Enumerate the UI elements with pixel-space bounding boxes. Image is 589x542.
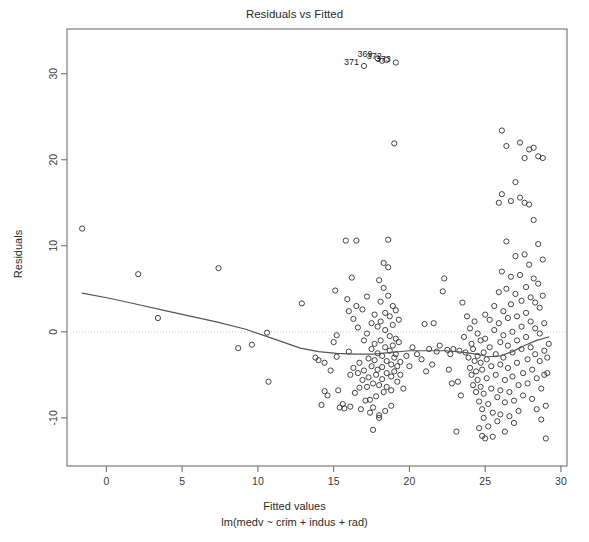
residuals-vs-fitted-plot: Residuals vs Fitted 051015202530 -100102… (0, 0, 589, 542)
y-tick-label: -10 (47, 410, 59, 425)
outlier-label: 373 (376, 54, 391, 64)
x-tick-label: 25 (479, 475, 491, 487)
y-tick-label: 30 (47, 68, 59, 80)
chart-title: Residuals vs Fitted (246, 8, 343, 20)
x-tick-label: 5 (179, 475, 185, 487)
x-tick-label: 10 (252, 475, 264, 487)
y-axis-label: Residuals (12, 229, 24, 278)
y-tick-label: 10 (47, 240, 59, 252)
x-axis-label: Fitted values (263, 500, 326, 512)
model-formula-label: lm(medv ~ crim + indus + rad) (221, 516, 367, 528)
x-tick-label: 0 (103, 475, 109, 487)
x-tick-label: 15 (328, 475, 340, 487)
x-tick-label: 30 (555, 475, 567, 487)
plot-background (0, 0, 589, 542)
x-tick-label: 20 (404, 475, 416, 487)
y-tick-label: 20 (47, 154, 59, 166)
y-tick-label: 0 (47, 329, 59, 335)
plot-canvas: Residuals vs Fitted 051015202530 -100102… (0, 0, 589, 542)
